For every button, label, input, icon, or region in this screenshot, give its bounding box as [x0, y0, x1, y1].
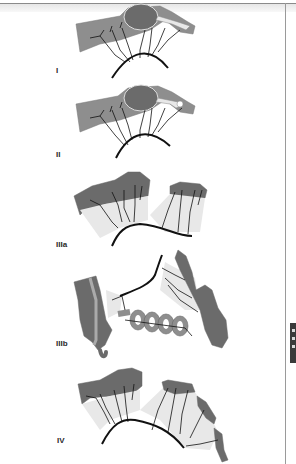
figure-page: I II IIIa IIIb IV — [0, 0, 296, 464]
panel-ii-drawing — [76, 85, 195, 158]
panel-label-i: I — [56, 66, 58, 75]
anatomical-diagram — [0, 0, 296, 464]
panel-label-iiib: IIIb — [56, 339, 68, 348]
panel-iiia-drawing — [74, 172, 207, 246]
panel-i-drawing — [76, 4, 195, 78]
panel-iv-drawing — [78, 368, 228, 462]
panel-label-ii: II — [56, 150, 60, 159]
panel-label-iv: IV — [57, 436, 65, 445]
panel-iiib-drawing — [74, 250, 228, 356]
panel-label-iiia: IIIa — [56, 240, 67, 249]
